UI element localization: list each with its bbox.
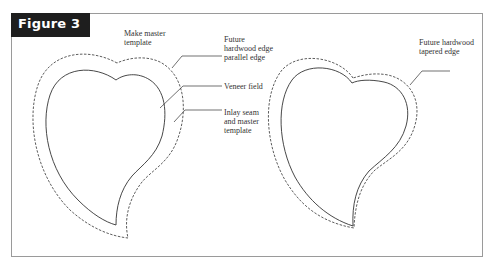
left-outer-dashed-edge bbox=[33, 54, 183, 238]
leader-hardwood-edge bbox=[172, 56, 182, 68]
leader-veneer-field bbox=[160, 86, 183, 108]
label-future-hardwood-edge: Future hardwood edge parallel edge bbox=[224, 35, 273, 62]
label-veneer-field: Veneer field bbox=[224, 82, 263, 91]
label-make-master-template: Make master template bbox=[124, 29, 166, 47]
leader-inlay-seam bbox=[174, 110, 185, 122]
right-inner-seam bbox=[281, 68, 408, 226]
right-outer-dashed-edge bbox=[268, 58, 417, 228]
label-tapered-edge: Future hardwood tapered edge bbox=[419, 38, 474, 56]
leader-tapered-edge bbox=[410, 71, 422, 85]
label-inlay-seam: Inlay seam and master template bbox=[224, 108, 259, 135]
left-inner-seam bbox=[46, 70, 165, 225]
